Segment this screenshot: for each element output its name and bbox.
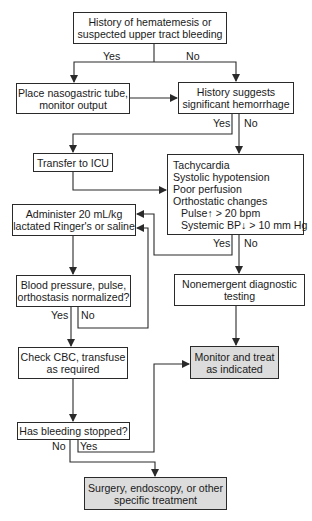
node-clinical-signs: Tachycardia Systolic hypotension Poor pe… <box>167 154 304 235</box>
node-text: as indicated <box>206 363 263 375</box>
node-text: suspected upper tract bleeding <box>78 28 223 40</box>
edge-label-bleeding-yes: Yes <box>80 440 97 452</box>
edge-start-yes <box>74 62 154 82</box>
node-administer-fluids: Administer 20 mL/kg lactated Ringer's or… <box>12 204 136 236</box>
node-text: Orthostatic changes <box>173 195 267 207</box>
edge-label-normalized-yes: Yes <box>51 309 68 321</box>
node-text: Pulse↑ > 20 bpm <box>173 207 260 219</box>
node-bleeding-stopped: Has bleeding stopped? <box>17 422 130 440</box>
edge-label-normalized-no: No <box>81 309 95 321</box>
node-text: Blood pressure, pulse, <box>21 279 126 291</box>
node-text: Tachycardia <box>173 159 230 171</box>
node-ng-tube: Place nasogastric tube, monitor output <box>16 83 130 114</box>
node-text: testing <box>224 290 255 302</box>
node-text: Transfer to ICU <box>37 157 109 169</box>
node-text: Poor perfusion <box>173 183 242 195</box>
node-text: History suggests <box>197 86 275 98</box>
node-text: orthostasis normalized? <box>18 291 130 303</box>
connector-lines <box>0 0 312 521</box>
node-transfer-icu: Transfer to ICU <box>33 153 113 172</box>
edge-start-no <box>154 62 236 81</box>
edge-hemorrhage-yes <box>73 114 232 152</box>
node-nonemergent-testing: Nonemergent diagnostic testing <box>174 274 305 306</box>
node-monitor-treat: Monitor and treat as indicated <box>190 346 279 379</box>
node-text: monitor output <box>39 99 107 111</box>
node-start: History of hematemesis or suspected uppe… <box>73 12 227 44</box>
node-text: Place nasogastric tube, <box>18 87 128 99</box>
edge-label-hemorrhage-no: No <box>244 117 258 129</box>
flowchart: History of hematemesis or suspected uppe… <box>0 0 312 521</box>
node-text: History of hematemesis or <box>88 16 211 28</box>
node-vitals-normalized: Blood pressure, pulse, orthostasis norma… <box>16 275 131 307</box>
edge-label-start-yes: Yes <box>103 50 120 62</box>
node-text: Check CBC, transfuse <box>21 351 126 363</box>
node-text: Surgery, endoscopy, or other <box>88 482 223 494</box>
node-text: Systolic hypotension <box>173 171 270 183</box>
edge-label-bleeding-no: No <box>52 440 66 452</box>
node-text: significant hemorrhage <box>182 98 289 110</box>
node-text: lactated Ringer's or saline <box>13 220 135 232</box>
edge-icu-to-signs <box>73 172 166 190</box>
node-text: Monitor and treat <box>194 351 274 363</box>
edge-label-start-no: No <box>186 50 200 62</box>
node-text: Systemic BP↓ > 10 mm Hg <box>173 219 307 231</box>
node-check-cbc: Check CBC, transfuse as required <box>18 347 128 379</box>
edge-label-signs-no: No <box>244 237 258 249</box>
node-text: as required <box>47 363 100 375</box>
node-text: Has bleeding stopped? <box>19 425 127 437</box>
node-surgery-treatment: Surgery, endoscopy, or other specific tr… <box>84 477 227 510</box>
node-text: specific treatment <box>114 494 197 506</box>
node-history-hemorrhage: History suggests significant hemorrhage <box>178 82 294 114</box>
edge-label-hemorrhage-yes: Yes <box>213 117 230 129</box>
edge-label-signs-yes: Yes <box>213 237 230 249</box>
node-text: Administer 20 mL/kg <box>26 208 123 220</box>
node-text: Nonemergent diagnostic <box>182 278 297 290</box>
